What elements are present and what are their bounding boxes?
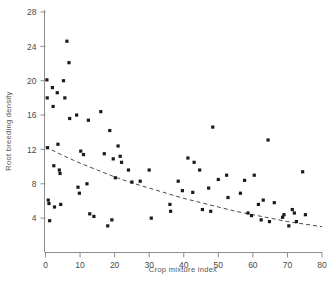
data-point: [304, 213, 307, 216]
data-point: [65, 40, 68, 43]
data-point: [52, 105, 55, 108]
data-point: [52, 164, 55, 167]
data-point: [191, 191, 194, 194]
data-point: [48, 219, 51, 222]
data-point: [293, 211, 296, 214]
data-point: [46, 96, 49, 99]
data-point: [186, 156, 189, 159]
data-point: [282, 213, 285, 216]
data-point: [99, 110, 102, 113]
data-point: [75, 113, 78, 116]
data-point: [262, 199, 265, 202]
data-point: [62, 79, 65, 82]
data-point: [225, 174, 228, 177]
y-tick-label: 8: [32, 179, 37, 189]
x-tick-label: 20: [110, 260, 120, 270]
data-point: [108, 129, 111, 132]
data-point: [103, 152, 106, 155]
data-point: [211, 126, 214, 129]
data-point: [130, 180, 133, 183]
data-point: [45, 78, 48, 81]
x-tick-label: 80: [317, 260, 327, 270]
data-point: [198, 168, 201, 171]
x-tick-label: 60: [248, 260, 258, 270]
fit-curve: [46, 147, 323, 227]
data-point: [201, 208, 204, 211]
data-point: [253, 174, 256, 177]
data-point: [53, 205, 56, 208]
data-point: [58, 172, 61, 175]
data-point: [114, 176, 117, 179]
data-point: [79, 150, 82, 153]
y-tick-label: 20: [27, 76, 37, 86]
data-point: [68, 117, 71, 120]
data-point: [257, 203, 260, 206]
y-axis-ticks: 481216202428: [27, 7, 45, 223]
data-point: [78, 192, 81, 195]
data-point: [250, 214, 253, 217]
data-point: [301, 170, 304, 173]
data-point: [273, 201, 276, 204]
data-point: [268, 220, 271, 223]
data-point: [67, 61, 70, 64]
data-point: [47, 202, 50, 205]
data-point: [112, 157, 115, 160]
data-point: [92, 215, 95, 218]
y-tick-label: 24: [27, 42, 37, 52]
data-point: [76, 186, 79, 189]
x-tick-label: 0: [43, 260, 48, 270]
y-axis-title: Root breeding density: [4, 91, 13, 170]
data-point: [260, 218, 263, 221]
data-point: [148, 168, 151, 171]
chart-canvas: 481216202428 01020304050607080 Crop mixt…: [0, 0, 334, 281]
x-tick-label: 10: [75, 260, 85, 270]
data-point: [59, 203, 62, 206]
data-point: [168, 203, 171, 206]
data-point: [209, 210, 212, 213]
data-point: [266, 138, 269, 141]
data-point: [87, 119, 90, 122]
data-point: [291, 208, 294, 211]
data-point: [85, 182, 88, 185]
data-point: [51, 86, 54, 89]
data-point: [295, 220, 298, 223]
y-tick-label: 4: [32, 213, 37, 223]
data-point: [169, 210, 172, 213]
axis-lines: [45, 10, 323, 253]
x-tick-label: 70: [283, 260, 293, 270]
data-point: [226, 196, 229, 199]
data-point: [181, 189, 184, 192]
data-point: [110, 218, 113, 221]
y-tick-label: 28: [27, 7, 37, 17]
data-point: [127, 168, 130, 171]
data-points: [45, 40, 307, 228]
data-point: [58, 168, 61, 171]
y-tick-label: 16: [27, 110, 37, 120]
data-point: [46, 146, 49, 149]
data-point: [150, 217, 153, 220]
data-point: [246, 211, 249, 214]
data-point: [82, 153, 85, 156]
x-axis-title: Crop mixture index: [149, 265, 217, 274]
data-point: [243, 179, 246, 182]
data-point: [207, 186, 210, 189]
data-point: [120, 161, 123, 164]
data-point: [217, 178, 220, 181]
data-point: [193, 161, 196, 164]
data-point: [56, 143, 59, 146]
data-point: [88, 212, 91, 215]
fit-curve-path: [46, 147, 323, 227]
scatter-chart-figure: 481216202428 01020304050607080 Crop mixt…: [0, 0, 334, 281]
data-point: [56, 91, 59, 94]
data-point: [47, 199, 50, 202]
data-point: [287, 224, 290, 227]
data-point: [106, 224, 109, 227]
data-point: [63, 96, 66, 99]
data-point: [177, 180, 180, 183]
y-tick-label: 12: [27, 145, 37, 155]
data-point: [239, 192, 242, 195]
data-point: [119, 155, 122, 158]
data-point: [116, 144, 119, 147]
data-point: [139, 180, 142, 183]
